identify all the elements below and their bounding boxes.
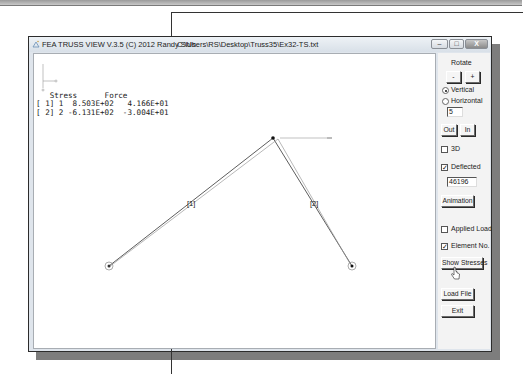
control-panel: Rotate - + Vertical Horizontal 5 Out In … bbox=[438, 53, 490, 349]
rotate-label: Rotate bbox=[451, 59, 472, 66]
applied-load-checkbox[interactable] bbox=[441, 226, 448, 233]
page-top-rule bbox=[0, 0, 522, 6]
element-no-checkbox[interactable]: ✓ bbox=[441, 243, 448, 250]
check-icon: ✓ bbox=[442, 243, 448, 250]
show-stresses-button[interactable]: Show Stresses bbox=[441, 257, 483, 269]
animation-button[interactable]: Animation bbox=[441, 195, 474, 207]
rotate-plus-button[interactable]: + bbox=[465, 71, 480, 83]
vertical-radio[interactable] bbox=[442, 87, 449, 94]
maximize-button[interactable]: □ bbox=[449, 39, 464, 49]
check-icon: ✓ bbox=[442, 164, 448, 171]
truss-canvas[interactable]: [1] [2] Stress Force[ 1] 1 8.503E+02 4.1… bbox=[33, 53, 436, 349]
3d-checkbox[interactable] bbox=[441, 146, 448, 153]
horizontal-radio[interactable] bbox=[442, 98, 449, 105]
stress-results-table: Stress Force[ 1] 1 8.503E+02 4.166E+01[ … bbox=[36, 92, 169, 117]
node-top bbox=[271, 136, 275, 140]
zoom-out-button[interactable]: Out bbox=[441, 124, 457, 136]
app-icon bbox=[32, 40, 40, 48]
file-path: C:\Users\RS\Desktop\Truss35\Ex32-TS.txt bbox=[177, 37, 318, 52]
zoom-in-button[interactable]: In bbox=[460, 124, 475, 136]
element-label-2: [2] bbox=[310, 199, 318, 208]
load-file-button[interactable]: Load File bbox=[441, 288, 474, 300]
minimize-button[interactable]: – bbox=[431, 39, 448, 49]
rotate-step-input[interactable]: 5 bbox=[447, 107, 463, 117]
deflection-scale-input[interactable]: 46196 bbox=[447, 177, 477, 187]
applied-load-label: Applied Load bbox=[451, 225, 492, 232]
maximize-icon: □ bbox=[454, 40, 458, 47]
callout-line-bottom bbox=[171, 349, 172, 374]
3d-label: 3D bbox=[451, 145, 460, 152]
deflected-checkbox[interactable]: ✓ bbox=[441, 164, 448, 171]
support-left-icon bbox=[105, 262, 113, 270]
support-right-icon bbox=[348, 262, 356, 270]
element-label-1: [1] bbox=[187, 199, 195, 208]
horizontal-label: Horizontal bbox=[451, 97, 483, 104]
close-button[interactable]: X bbox=[465, 39, 488, 49]
axis-icon bbox=[42, 64, 57, 91]
rotate-minus-button[interactable]: - bbox=[446, 71, 461, 83]
exit-button[interactable]: Exit bbox=[441, 305, 474, 317]
window-title: FEA TRUSS VIEW V.3.5 (C) 2012 Randy Shih bbox=[42, 37, 196, 52]
mouse-cursor-icon bbox=[451, 266, 461, 280]
minimize-icon: – bbox=[438, 40, 442, 47]
fea-truss-view-window: FEA TRUSS VIEW V.3.5 (C) 2012 Randy Shih… bbox=[28, 36, 492, 352]
results-row: [ 2] 2 -6.131E+02 -3.004E+01 bbox=[36, 109, 169, 117]
vertical-label: Vertical bbox=[451, 86, 474, 93]
close-icon: X bbox=[474, 40, 479, 47]
title-bar[interactable]: FEA TRUSS VIEW V.3.5 (C) 2012 Randy Shih… bbox=[29, 37, 491, 52]
deflected-label: Deflected bbox=[451, 163, 481, 170]
element-no-label: Element No. bbox=[451, 242, 490, 249]
